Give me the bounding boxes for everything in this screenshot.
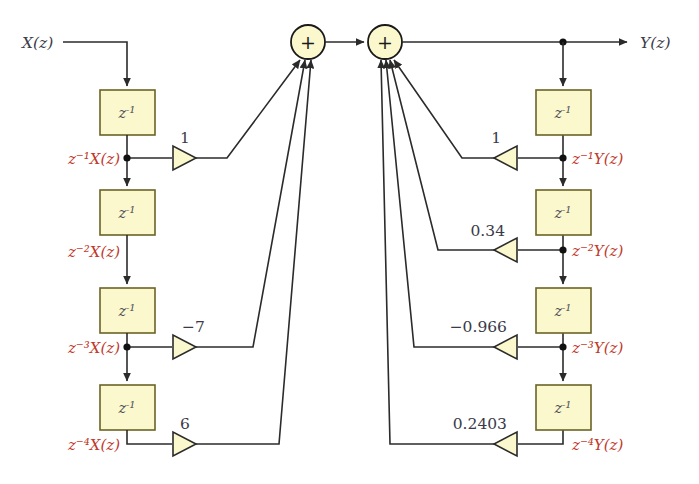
ff-wire-4-tap [127, 430, 172, 444]
fb-tap-signal-1: z⁻¹Y(z) [571, 150, 623, 168]
ff-gain-label-1: 1 [180, 129, 190, 147]
ff-tap-signal-1: z⁻¹X(z) [67, 150, 120, 168]
ff-gain-triangle-4 [173, 432, 196, 456]
fb-tap-signal-3: z⁻³Y(z) [571, 339, 623, 357]
fb-gain-label-3: −0.966 [450, 318, 507, 336]
flow-graph-canvas: + + [0, 0, 699, 484]
fb-gain-labels: 1 0.34 −0.966 0.2403 [450, 129, 507, 433]
output-label: Y(z) [640, 34, 671, 52]
ff-gain-triangle-3 [173, 335, 196, 359]
fb-adder-wire-4 [381, 60, 494, 444]
fb-gain-label-1: 1 [491, 129, 501, 147]
fb-gain-label-4: 0.2403 [453, 415, 507, 433]
ff-gain-labels: 1 −7 6 [180, 129, 205, 433]
fb-to-adder-wires [381, 60, 494, 444]
fb-gain-triangle-2 [494, 238, 517, 262]
fb-adder-wire-1 [394, 60, 494, 158]
fb-gain-triangle-1 [494, 146, 517, 170]
ff-gain-label-3: −7 [182, 318, 205, 336]
input-label: X(z) [21, 34, 53, 52]
adder-2-group: + [368, 25, 402, 59]
input-wire-group [63, 42, 127, 86]
fb-gain-label-2: 0.34 [470, 222, 505, 240]
ff-adder-wire-3 [196, 60, 305, 347]
signal-flow-diagram: + + [0, 0, 699, 484]
ff-tap-signal-2: z⁻²X(z) [67, 243, 120, 261]
fb-node-dot-3 [559, 343, 566, 350]
input-wire [63, 42, 127, 86]
fb-gain-triangles [494, 146, 517, 456]
fb-tap-signal-4: z⁻⁴Y(z) [571, 436, 623, 454]
feedforward-adder-symbol: + [300, 31, 316, 53]
output-wire-group [402, 38, 627, 45]
ff-gain-triangle-1 [173, 146, 196, 170]
fb-gain-triangle-3 [494, 335, 517, 359]
ff-adder-wire-4 [196, 60, 311, 444]
ff-node-dot-1 [123, 154, 130, 161]
fb-wire-4-tap [518, 430, 563, 444]
ff-to-adder-wires [196, 60, 311, 444]
fb-tap-signal-2: z⁻²Y(z) [571, 242, 623, 260]
fb-gain-triangle-4 [494, 432, 517, 456]
fb-node-dot-2 [559, 246, 566, 253]
ff-tap-signal-4: z⁻⁴X(z) [67, 436, 120, 454]
ff-gain-triangles [173, 146, 196, 456]
fb-adder-wire-3 [386, 60, 494, 347]
fb-node-dot-1 [559, 154, 566, 161]
ff-adder-wire-1 [196, 60, 300, 158]
ff-gain-label-4: 6 [180, 415, 190, 433]
adder-1-group: + [291, 25, 325, 59]
ff-tap-signal-3: z⁻³X(z) [67, 339, 120, 357]
ff-node-dot-3 [123, 343, 130, 350]
feedback-adder-symbol: + [377, 31, 393, 53]
